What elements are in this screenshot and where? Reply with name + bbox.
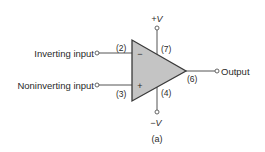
- positive-supply-terminal: [155, 26, 159, 30]
- output-label: Output: [221, 66, 250, 77]
- noninverting-sign: +: [137, 81, 142, 91]
- positive-supply-label: +V: [151, 14, 163, 24]
- noninverting-input-terminal: [95, 83, 99, 87]
- inverting-input-terminal: [95, 51, 99, 55]
- negative-supply-terminal: [155, 110, 159, 114]
- output-terminal: [215, 69, 219, 73]
- noninverting-pin-label: (3): [116, 89, 127, 99]
- inverting-pin-label: (2): [116, 43, 127, 53]
- noninverting-input-label: Noninverting input: [17, 80, 94, 91]
- positive-supply-pin-label: (7): [161, 44, 172, 54]
- negative-supply-label: −V: [150, 118, 162, 128]
- inverting-input-label: Inverting input: [34, 48, 94, 59]
- op-amp-diagram: Inverting input Noninverting input Outpu…: [0, 0, 265, 152]
- inverting-sign: −: [137, 49, 142, 59]
- output-pin-label: (6): [187, 74, 198, 84]
- negative-supply-pin-label: (4): [161, 88, 172, 98]
- figure-caption: (a): [152, 134, 163, 144]
